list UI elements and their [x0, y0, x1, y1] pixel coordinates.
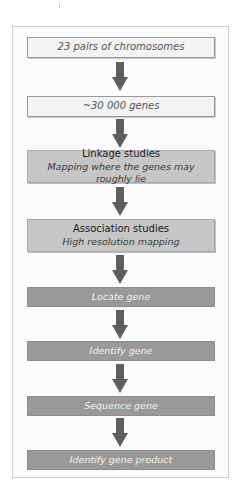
step-subtitle: Mapping where the genes may roughly lie	[28, 161, 214, 185]
step-subtitle: High resolution mapping	[62, 236, 179, 248]
step-label: ~30 000 genes	[83, 100, 160, 113]
down-arrow-icon	[112, 418, 128, 447]
step-label: Identify gene product	[70, 454, 173, 466]
down-arrow-icon	[112, 187, 128, 216]
step-genes: ~30 000 genes	[27, 96, 215, 117]
step-locate-gene: Locate gene	[27, 287, 215, 307]
down-arrow-icon	[112, 364, 128, 393]
step-identify-gene: Identify gene	[27, 341, 215, 361]
step-title: Association studies	[73, 223, 169, 236]
down-arrow-icon	[112, 255, 128, 284]
step-label: Sequence gene	[84, 400, 158, 412]
top-mark	[59, 4, 60, 8]
step-label: 23 pairs of chromosomes	[58, 41, 185, 54]
step-sequence-gene: Sequence gene	[27, 396, 215, 416]
down-arrow-icon	[112, 119, 128, 148]
step-identify-gene-product: Identify gene product	[27, 450, 215, 470]
step-label: Identify gene	[90, 345, 153, 357]
down-arrow-icon	[112, 62, 128, 91]
step-label: Locate gene	[92, 291, 150, 303]
step-title: Linkage studies	[82, 148, 160, 161]
step-association-studies: Association studies High resolution mapp…	[27, 219, 215, 252]
step-linkage-studies: Linkage studies Mapping where the genes …	[27, 150, 215, 183]
step-chromosomes: 23 pairs of chromosomes	[27, 37, 215, 58]
down-arrow-icon	[112, 310, 128, 339]
